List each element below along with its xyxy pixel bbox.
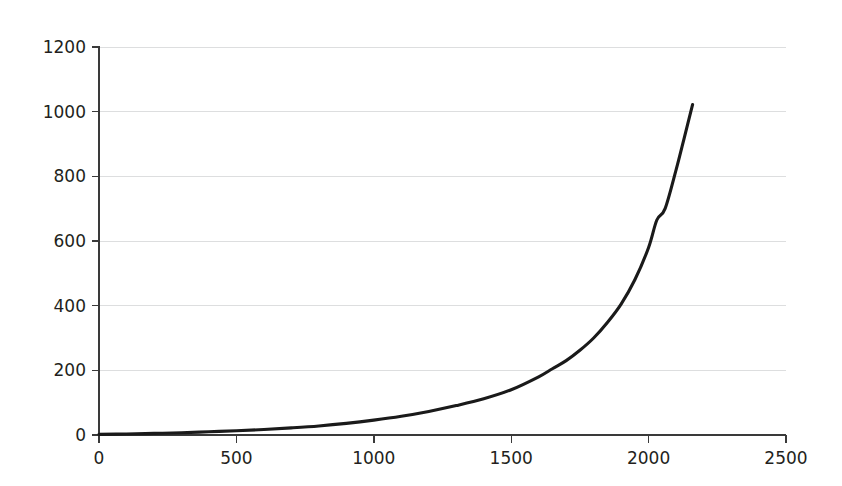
chart-container: 020040060080010001200 050010001500200025… bbox=[0, 0, 842, 486]
y-tick-label: 200 bbox=[54, 360, 86, 380]
y-tick-label: 0 bbox=[75, 425, 86, 445]
y-tick-label: 600 bbox=[54, 231, 86, 251]
y-tick-label: 1000 bbox=[43, 102, 86, 122]
x-tick-label: 2500 bbox=[764, 448, 807, 468]
x-tick-label: 2000 bbox=[627, 448, 670, 468]
x-tick-label: 1000 bbox=[352, 448, 395, 468]
y-tick-label: 400 bbox=[54, 296, 86, 316]
y-tick-label: 800 bbox=[54, 166, 86, 186]
x-tick-label: 1500 bbox=[490, 448, 533, 468]
y-tick-label: 1200 bbox=[43, 37, 86, 57]
x-tick-label: 0 bbox=[94, 448, 105, 468]
line-chart: 020040060080010001200 050010001500200025… bbox=[0, 0, 842, 486]
x-tick-label: 500 bbox=[220, 448, 252, 468]
